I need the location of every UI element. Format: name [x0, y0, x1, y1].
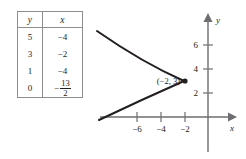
y-axis-label: y [215, 15, 220, 25]
graph-svg: −6 −4 −2 6 4 2 x y (−2, 3) [0, 0, 246, 159]
y-axis-arrow-icon [204, 13, 213, 22]
y-tick-label: 2 [194, 88, 199, 98]
x-tick-label: −2 [180, 124, 190, 134]
x-tick-label: −6 [132, 124, 142, 134]
vertex-point-label: (−2, 3) [157, 76, 180, 86]
vertex-point-marker [182, 78, 187, 83]
y-tick-label: 6 [194, 40, 199, 50]
x-axis-label: x [229, 123, 234, 133]
parabola-graph: −6 −4 −2 6 4 2 x y (−2, 3) [0, 0, 246, 159]
math-figure: y x 5 −4 3 −2 1 −4 0 [0, 0, 246, 159]
y-tick-label: 4 [194, 64, 199, 74]
x-axis-arrow-icon [228, 113, 237, 122]
x-tick-label: −4 [156, 124, 166, 134]
